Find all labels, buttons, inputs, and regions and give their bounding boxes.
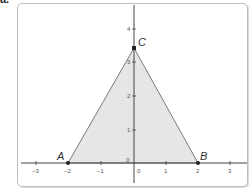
y-tick-label: 4 (127, 26, 131, 32)
triangle-abc (68, 48, 198, 163)
vertex-c-label: C (138, 36, 146, 48)
x-tick-label: −3 (32, 168, 40, 174)
x-tick-label: −1 (97, 168, 105, 174)
x-tick-label: 2 (196, 168, 200, 174)
x-tick-label: 3 (228, 168, 232, 174)
vertex-b-label: B (200, 150, 207, 162)
vertex-c-point (132, 46, 136, 50)
x-tick-label: 1 (164, 168, 168, 174)
x-tick-label: −2 (64, 168, 72, 174)
vertex-a-point (66, 161, 70, 165)
x-tick-label: 0 (137, 168, 141, 174)
coordinate-plane: −3 −2 −1 0 1 2 3 0 1 2 3 4 A B C (0, 0, 252, 192)
vertex-a-label: A (56, 150, 64, 162)
